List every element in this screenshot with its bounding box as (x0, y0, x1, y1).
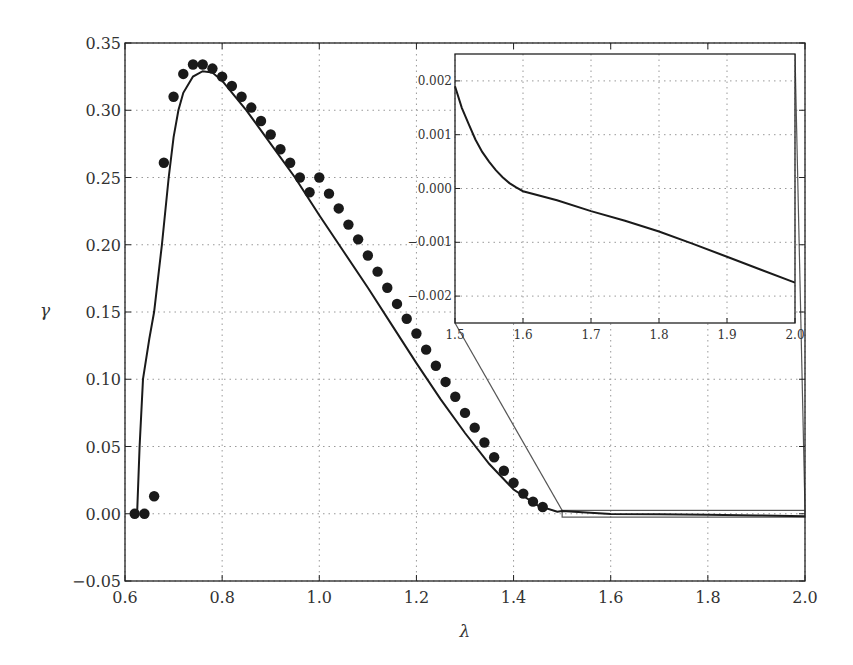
data-point (499, 466, 509, 476)
data-point (460, 408, 470, 418)
data-point (246, 102, 256, 112)
data-point (353, 234, 363, 244)
x-axis-label: λ (459, 621, 471, 641)
data-point (538, 502, 548, 512)
y-tick-label: 0.30 (85, 101, 121, 120)
inset-x-tick-label: 2.0 (785, 328, 804, 342)
inset-y-tick-label: −0.001 (408, 235, 452, 249)
x-tick-label: 1.4 (501, 588, 526, 607)
data-point (217, 71, 227, 81)
data-point (207, 63, 217, 73)
data-point (275, 144, 285, 154)
x-tick-label: 1.0 (307, 588, 332, 607)
data-point (266, 129, 276, 139)
inset-y-ticks: −0.002−0.0010.0000.0010.002 (408, 74, 460, 303)
inset-x-tick-label: 1.5 (445, 328, 464, 342)
data-point (295, 172, 305, 182)
data-point (411, 328, 421, 338)
data-point (450, 392, 460, 402)
data-point (139, 509, 149, 519)
chart: 0.60.81.01.21.41.61.82.0 −0.050.000.050.… (0, 0, 853, 665)
data-point (392, 299, 402, 309)
data-point (440, 377, 450, 387)
x-tick-label: 2.0 (792, 588, 817, 607)
data-point (324, 188, 334, 198)
data-point (227, 81, 237, 91)
data-point (402, 314, 412, 324)
y-axis-label: γ (40, 300, 51, 320)
y-tick-label: 0.25 (85, 169, 121, 188)
inset-x-tick-label: 1.7 (581, 328, 600, 342)
data-point (431, 361, 441, 371)
y-tick-label: 0.00 (85, 505, 121, 524)
x-tick-label: 1.2 (404, 588, 429, 607)
data-point (528, 496, 538, 506)
x-tick-label: 1.8 (695, 588, 720, 607)
data-point (470, 422, 480, 432)
data-point (304, 187, 314, 197)
data-point (382, 283, 392, 293)
inset-y-tick-label: 0.001 (418, 128, 452, 142)
inset-x-tick-label: 1.9 (717, 328, 736, 342)
x-tick-label: 0.8 (209, 588, 234, 607)
inset-y-tick-label: −0.002 (408, 289, 452, 303)
data-point (236, 92, 246, 102)
data-point (372, 266, 382, 276)
data-point (130, 509, 140, 519)
data-point (508, 478, 518, 488)
inset-y-tick-label: 0.000 (418, 182, 452, 196)
data-point (479, 437, 489, 447)
data-point (518, 488, 528, 498)
data-point (363, 250, 373, 260)
data-point (285, 158, 295, 168)
y-tick-label: 0.20 (85, 236, 121, 255)
y-tick-label: −0.05 (72, 572, 121, 591)
data-point (159, 158, 169, 168)
y-tick-label: 0.15 (85, 303, 121, 322)
inset-plot: 1.51.61.71.81.92.0 −0.002−0.0010.0000.00… (408, 54, 805, 342)
data-point (334, 203, 344, 213)
data-point (149, 491, 159, 501)
data-point (256, 116, 266, 126)
data-point (168, 92, 178, 102)
data-point (343, 219, 353, 229)
inset-y-tick-label: 0.002 (418, 74, 452, 88)
data-point (188, 59, 198, 69)
y-tick-label: 0.35 (85, 34, 121, 53)
data-point (421, 344, 431, 354)
y-tick-label: 0.10 (85, 370, 121, 389)
data-point (178, 69, 188, 79)
data-point (198, 59, 208, 69)
x-tick-label: 1.6 (598, 588, 623, 607)
y-tick-label: 0.05 (85, 438, 121, 457)
data-point (489, 452, 499, 462)
inset-x-tick-label: 1.8 (649, 328, 668, 342)
inset-x-tick-label: 1.6 (513, 328, 532, 342)
data-point (314, 172, 324, 182)
